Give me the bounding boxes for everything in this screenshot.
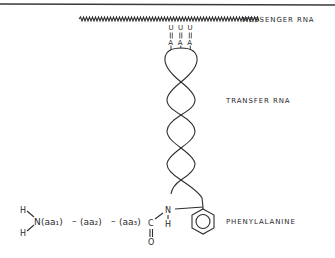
trna-translation-diagram: MESSENGER RNA U U U A A A — [0, 0, 335, 258]
phenylalanine-label: PHENYLALANINE — [226, 218, 296, 226]
transfer-rna-label: TRANSFER RNA — [225, 97, 291, 105]
residue-1: (aa₁) — [41, 217, 63, 227]
amino-nitrogen: N — [34, 217, 41, 227]
codon-base-1: U — [169, 24, 174, 32]
anticodon-base-3: A — [187, 39, 192, 47]
carbonyl-carbon: C — [148, 219, 154, 228]
anticodon-bases: A A A — [168, 39, 192, 47]
peptide-chain: H H N (aa₁) – (aa₂) – (aa₃) C O N H — [20, 206, 171, 247]
codon-base-3: U — [188, 24, 193, 32]
amino-hydrogen-top: H — [20, 206, 26, 215]
top-border-rule — [0, 4, 335, 5]
messenger-rna-strand — [79, 17, 259, 21]
dash-2: – — [111, 216, 116, 226]
codon-bases: U U U — [169, 24, 193, 32]
transfer-rna-helix — [165, 48, 203, 207]
anticodon-base-2: A — [178, 39, 183, 47]
messenger-rna-label: MESSENGER RNA — [242, 16, 315, 24]
amide-hydrogen: H — [165, 220, 171, 229]
codon-base-2: U — [178, 24, 183, 32]
amino-hydrogen-bottom: H — [20, 229, 26, 238]
phenylalanine-residue — [175, 207, 214, 234]
dash-1: – — [72, 216, 77, 226]
amide-nitrogen: N — [165, 206, 171, 215]
carbonyl-oxygen: O — [148, 238, 154, 247]
benzene-ring — [192, 209, 214, 234]
residue-3: (aa₃) — [119, 217, 141, 227]
base-pair-bonds — [170, 33, 191, 39]
residue-2: (aa₂) — [80, 217, 102, 227]
